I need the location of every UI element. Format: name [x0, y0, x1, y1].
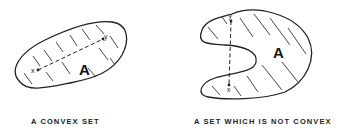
nonconvex-set-label: A [273, 44, 284, 61]
nonconvex-point-start [230, 20, 233, 23]
nonconvex-segment [229, 21, 231, 85]
nonconvex-point-end-label: x [227, 86, 231, 93]
nonconvex-set-figure: y x A [200, 10, 311, 99]
nonconvex-caption: A SET WHICH IS NOT CONVEX [194, 117, 332, 126]
convex-set-label: A [79, 61, 90, 78]
nonconvex-point-start-label: y [229, 12, 233, 20]
convex-set-figure: x y A [15, 22, 126, 88]
convex-set-outline [15, 22, 126, 88]
convex-point-end-label: y [104, 33, 108, 41]
nonconvex-set-hatching [208, 14, 306, 96]
convex-point-start [37, 69, 40, 72]
convex-point-start-label: x [31, 67, 35, 74]
convex-caption: A CONVEX SET [31, 117, 100, 126]
nonconvex-set-outline [200, 10, 311, 99]
